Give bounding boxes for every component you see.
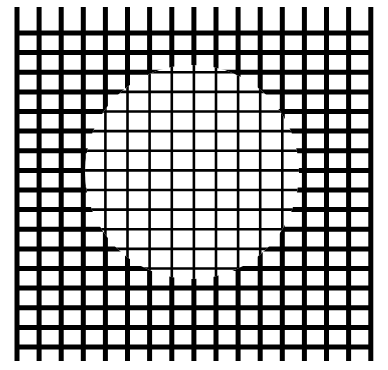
grid-illusion-figure (0, 0, 388, 370)
illusion-figure-container (0, 0, 388, 370)
